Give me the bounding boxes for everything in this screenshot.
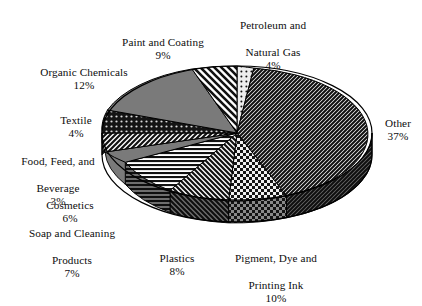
label-petroleum-pct: 4% — [214, 59, 332, 72]
label-soap-line1: Soap and Cleaning — [29, 227, 115, 239]
label-other-line1: Other — [385, 117, 411, 129]
label-plastics: Plastics 8% — [136, 239, 218, 292]
label-soap-line2: Products — [52, 254, 92, 266]
label-petroleum-line2: Natural Gas — [246, 46, 301, 58]
label-other-pct: 37% — [374, 130, 422, 143]
label-organic-pct: 12% — [22, 79, 146, 92]
label-soap-pct: 7% — [10, 267, 134, 280]
label-soap-and-cleaning-products: Soap and Cleaning Products 7% — [10, 214, 134, 293]
label-cosmetics-line1: Cosmetics — [46, 199, 94, 211]
label-pigment-line2: Printing Ink — [249, 279, 304, 291]
label-textile-line1: Textile — [60, 114, 92, 126]
label-other: Other 37% — [374, 104, 422, 157]
label-pigment-line1: Pigment, Dye and — [235, 252, 317, 264]
label-pigment-dye-and-printing-ink: Pigment, Dye and Printing Ink 10% — [215, 239, 337, 306]
label-pigment-pct: 10% — [215, 292, 337, 305]
label-petroleum-line1: Petroleum and — [240, 19, 306, 31]
label-organic-chemicals: Organic Chemicals 12% — [22, 53, 146, 106]
label-petroleum-and-natural-gas: Petroleum and Natural Gas 4% — [214, 6, 332, 85]
label-organic-line1: Organic Chemicals — [40, 66, 128, 78]
label-paint-line1: Paint and Coating — [122, 36, 204, 48]
label-food-line1: Food, Feed, and — [21, 155, 95, 167]
label-textile-pct: 4% — [36, 127, 116, 140]
label-plastics-line1: Plastics — [160, 252, 195, 264]
label-plastics-pct: 8% — [136, 265, 218, 278]
